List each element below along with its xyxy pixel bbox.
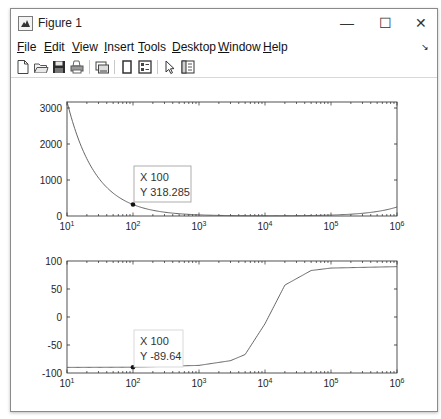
y-tick-label: 100 [45,256,62,267]
y-tick-label: -50 [48,340,63,351]
svg-text:102: 102 [125,220,140,232]
svg-text:102: 102 [125,377,140,389]
svg-text:103: 103 [191,377,206,389]
x-tick-labels-bottom: 101 102 103 104 105 106 [59,377,404,389]
svg-text:Y -89.64: Y -89.64 [140,350,181,362]
y-tick-label: 1000 [40,175,63,186]
svg-text:103: 103 [191,220,206,232]
datatip-marker[interactable] [131,202,136,207]
axes-phase[interactable]: 100 50 0 -50 -100 101 102 103 104 105 10… [42,256,405,390]
axes-magnitude[interactable]: 3000 2000 1000 0 101 102 103 104 105 106 [40,102,405,232]
svg-text:Y 318.285: Y 318.285 [140,186,190,198]
svg-text:X 100: X 100 [140,171,169,183]
x-tick-labels-top: 101 102 103 104 105 106 [59,220,404,232]
svg-text:104: 104 [257,377,272,389]
y-tick-label: 2000 [40,139,63,150]
y-tick-label: 0 [56,211,62,222]
svg-text:101: 101 [59,220,74,232]
svg-text:105: 105 [323,377,338,389]
svg-text:X 100: X 100 [140,335,169,347]
svg-text:106: 106 [389,220,404,232]
svg-text:106: 106 [389,377,404,389]
y-tick-label: 3000 [40,103,63,114]
svg-text:104: 104 [257,220,272,232]
svg-text:101: 101 [59,377,74,389]
plot-canvas[interactable]: 3000 2000 1000 0 101 102 103 104 105 106 [1,1,441,419]
y-tick-label: 0 [56,312,62,323]
figure-canvas[interactable]: 3000 2000 1000 0 101 102 103 104 105 106 [11,78,437,411]
svg-text:105: 105 [323,220,338,232]
datatip-phase[interactable]: X 100 Y -89.64 [134,330,183,367]
datatip-magnitude[interactable]: X 100 Y 318.285 [134,166,191,202]
figure-window: Figure 1 — ☐ ✕ File Edit View Insert Too… [10,8,438,412]
y-tick-label: -100 [42,368,62,379]
y-tick-label: 50 [51,284,63,295]
